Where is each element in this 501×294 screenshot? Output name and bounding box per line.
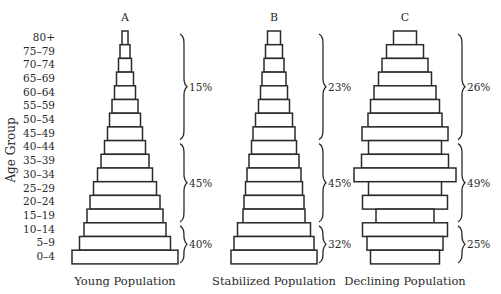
bar-40-44 xyxy=(369,141,442,155)
bar-70-74 xyxy=(264,58,284,72)
bar-10-14 xyxy=(84,223,166,237)
bar-35-39 xyxy=(101,154,149,168)
panel-letter: B xyxy=(270,11,278,24)
age-label: 45–49 xyxy=(23,127,55,139)
group-percent: 40% xyxy=(189,238,212,250)
bar-45-49 xyxy=(362,127,448,141)
bar-55-59 xyxy=(112,100,138,114)
bar-30-34 xyxy=(247,168,301,182)
age-label: 15–19 xyxy=(23,209,55,221)
bar-65-69 xyxy=(379,72,432,86)
bar-20-24 xyxy=(244,195,304,209)
brace-0 xyxy=(180,34,187,140)
bar-35-39 xyxy=(362,154,449,168)
bar-15-19 xyxy=(87,209,163,223)
bar-30-34 xyxy=(98,168,153,182)
pyramid-b: BStabilized Population23%45%32% xyxy=(212,11,351,288)
bar-45-49 xyxy=(108,127,143,141)
brace-1 xyxy=(458,144,465,222)
bar-55-59 xyxy=(371,100,440,114)
group-percent: 45% xyxy=(189,177,212,189)
age-label: 40–44 xyxy=(23,140,55,152)
group-percent: 15% xyxy=(189,81,212,93)
brace-1 xyxy=(319,144,326,222)
group-percent: 26% xyxy=(467,81,490,93)
bar-15-19 xyxy=(243,209,305,223)
bar-15-19 xyxy=(376,209,434,223)
age-label: 70–74 xyxy=(23,58,55,70)
bar-65-69 xyxy=(117,72,134,86)
panel-letter: A xyxy=(120,11,130,24)
age-label: 80+ xyxy=(33,31,55,43)
brace-0 xyxy=(319,34,326,140)
panel-title: Stabilized Population xyxy=(212,274,336,288)
age-label: 65–69 xyxy=(23,72,55,84)
bar-10-14 xyxy=(363,223,448,237)
bar-65-69 xyxy=(262,72,286,86)
bar-75-79 xyxy=(387,45,424,59)
brace-2 xyxy=(319,226,326,263)
bar-0-4 xyxy=(371,250,440,264)
age-label: 20–24 xyxy=(23,195,55,207)
brace-2 xyxy=(458,226,465,263)
group-percent: 23% xyxy=(328,81,351,93)
age-label: 5–9 xyxy=(36,236,55,248)
bar-45-49 xyxy=(253,127,295,141)
age-label: 55–59 xyxy=(23,99,55,111)
bar-80+ xyxy=(268,31,281,45)
bar-70-74 xyxy=(382,58,428,72)
bar-40-44 xyxy=(252,141,297,155)
bar-20-24 xyxy=(363,195,448,209)
bar-5-9 xyxy=(234,237,314,251)
bar-50-54 xyxy=(110,113,141,127)
bar-75-79 xyxy=(120,45,130,59)
age-label: 35–39 xyxy=(23,154,55,166)
bar-20-24 xyxy=(90,195,160,209)
bar-35-39 xyxy=(249,154,299,168)
age-label: 50–54 xyxy=(23,113,55,125)
bar-60-64 xyxy=(374,86,436,100)
bar-0-4 xyxy=(72,250,178,264)
bar-10-14 xyxy=(238,223,311,237)
bar-30-34 xyxy=(354,168,456,182)
age-group-labels: 80+75–7970–7465–6960–6455–5950–5445–4940… xyxy=(23,31,55,262)
group-percent: 49% xyxy=(467,177,490,189)
brace-0 xyxy=(458,34,465,140)
bar-0-4 xyxy=(231,250,317,264)
population-pyramids-figure: Age Group 80+75–7970–7465–6960–6455–5950… xyxy=(0,0,501,294)
brace-1 xyxy=(180,144,187,222)
y-axis-label: Age Group xyxy=(4,117,18,184)
bar-25-29 xyxy=(246,182,303,196)
age-label: 75–79 xyxy=(23,45,55,57)
bar-50-54 xyxy=(368,113,442,127)
age-label: 30–34 xyxy=(23,168,55,180)
panel-title: Young Population xyxy=(73,274,176,288)
age-label: 60–64 xyxy=(23,86,55,98)
brace-2 xyxy=(180,226,187,263)
bar-60-64 xyxy=(261,86,288,100)
age-label: 10–14 xyxy=(23,223,55,235)
bar-75-79 xyxy=(266,45,283,59)
bar-40-44 xyxy=(105,141,146,155)
bar-70-74 xyxy=(119,58,132,72)
pyramid-a: AYoung Population15%45%40% xyxy=(72,11,212,288)
panel-letter: C xyxy=(401,11,409,24)
bar-25-29 xyxy=(369,182,442,196)
group-percent: 25% xyxy=(467,238,490,250)
age-label: 25–29 xyxy=(23,182,55,194)
bar-5-9 xyxy=(367,237,443,251)
bar-80+ xyxy=(122,31,128,45)
bar-55-59 xyxy=(259,100,290,114)
panel-title: Declining Population xyxy=(344,274,466,288)
bar-5-9 xyxy=(80,237,171,251)
bar-25-29 xyxy=(94,182,157,196)
group-percent: 32% xyxy=(328,238,351,250)
group-percent: 45% xyxy=(328,177,351,189)
bar-60-64 xyxy=(115,86,136,100)
bar-50-54 xyxy=(256,113,293,127)
pyramid-c: CDeclining Population26%49%25% xyxy=(344,11,490,288)
age-label: 0–4 xyxy=(36,250,55,262)
bar-80+ xyxy=(394,31,417,45)
